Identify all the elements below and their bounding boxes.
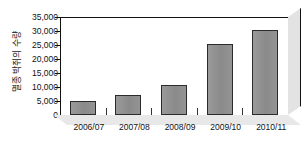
y-axis-tick-mark: [55, 101, 60, 102]
y-axis-tick-label: 10,000: [14, 83, 58, 92]
y-axis-tick-mark: [55, 87, 60, 88]
y-axis-tick-mark: [55, 17, 60, 18]
y-axis-tick-mark: [55, 31, 60, 32]
x-axis-tick-label: 2010/11: [256, 122, 286, 132]
y-axis-tick-mark: [55, 45, 60, 46]
bar-2009/10: [207, 44, 233, 115]
y-axis-tick-label: 30,000: [14, 27, 58, 36]
y-axis-tick-label: 25,000: [14, 41, 58, 50]
x-axis-separator: [242, 108, 243, 115]
x-axis-tick-label: 2009/10: [210, 122, 241, 132]
y-axis-tick-labels: 05,00010,00015,00020,00025,00030,00035,0…: [14, 13, 58, 115]
x-axis-tick-label: 2008/09: [165, 122, 196, 132]
x-axis-tick-label: 2007/08: [119, 122, 150, 132]
y-axis-tick-label: 15,000: [14, 69, 58, 78]
y-axis-tick-label: 20,000: [14, 55, 58, 64]
x-axis-separator: [197, 108, 198, 115]
y-axis-tick-label: 35,000: [14, 13, 58, 22]
y-axis-tick-mark: [55, 59, 60, 60]
bar-2010/11: [252, 30, 278, 115]
bar-2006/07: [70, 101, 96, 115]
y-axis-tick-label: 5,000: [14, 97, 58, 106]
chart-3d-side-wall: [288, 8, 301, 115]
plot-area: [60, 17, 288, 115]
y-axis-tick-mark: [55, 73, 60, 74]
y-axis-tick-label: 0: [14, 111, 58, 120]
x-axis-tick-labels: 2006/072007/082008/092009/102010/11: [60, 122, 308, 138]
bar-chart: 멸종 박쥐의 수량 05,00010,00015,00020,00025,000…: [0, 0, 308, 150]
x-axis-separator: [151, 108, 152, 115]
x-axis-tick-label: 2006/07: [73, 122, 104, 132]
bar-2008/09: [161, 85, 187, 115]
bar-2007/08: [115, 95, 141, 115]
x-axis-separator: [106, 108, 107, 115]
